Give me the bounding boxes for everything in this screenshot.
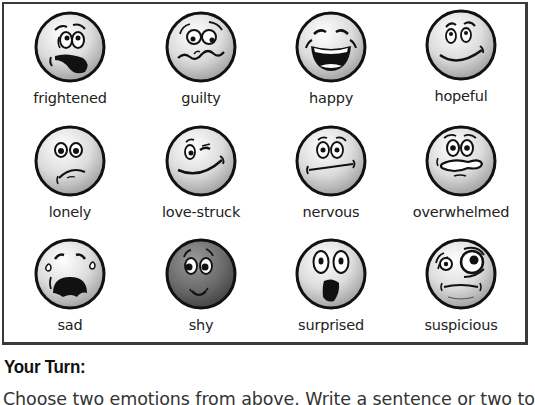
emotion-card-guilty: guilty xyxy=(136,10,266,106)
emotion-card-overwhelmed: overwhelmed xyxy=(396,124,526,220)
your-turn-instruction: Choose two emotions from above. Write a … xyxy=(3,389,535,405)
sad-face-icon xyxy=(33,237,107,311)
hopeful-face-icon xyxy=(424,8,498,82)
emotion-label: lonely xyxy=(5,204,135,220)
surprised-face-icon xyxy=(294,237,368,311)
frightened-face-icon xyxy=(33,10,107,84)
emotion-card-lonely: lonely xyxy=(5,124,135,220)
lonely-face-icon xyxy=(33,124,107,198)
emotion-label: sad xyxy=(5,317,135,333)
your-turn-heading: Your Turn: xyxy=(4,356,85,378)
emotion-card-surprised: surprised xyxy=(266,237,396,333)
nervous-face-icon xyxy=(294,124,368,198)
emotion-card-shy: shy xyxy=(136,237,266,333)
emotion-label: surprised xyxy=(266,317,396,333)
emotion-label: frightened xyxy=(5,90,135,106)
guilty-face-icon xyxy=(164,10,238,84)
emotion-label: guilty xyxy=(136,90,266,106)
emotion-label: nervous xyxy=(266,204,396,220)
emotion-label: shy xyxy=(136,317,266,333)
shy-face-icon xyxy=(164,237,238,311)
emotion-card-happy: happy xyxy=(266,10,396,106)
emotion-card-hopeful: hopeful xyxy=(396,8,526,104)
emotion-label: suspicious xyxy=(396,317,526,333)
emotion-card-suspicious: suspicious xyxy=(396,237,526,333)
emotion-card-nervous: nervous xyxy=(266,124,396,220)
emotion-card-love-struck: love-struck xyxy=(136,124,266,220)
emotion-label: hopeful xyxy=(396,88,526,104)
emotion-card-frightened: frightened xyxy=(5,10,135,106)
suspicious-face-icon xyxy=(424,237,498,311)
love-struck-face-icon xyxy=(164,124,238,198)
happy-face-icon xyxy=(294,10,368,84)
emotion-label: love-struck xyxy=(136,204,266,220)
emotion-label: overwhelmed xyxy=(396,204,526,220)
emotion-label: happy xyxy=(266,90,396,106)
emotion-card-sad: sad xyxy=(5,237,135,333)
overwhelmed-face-icon xyxy=(424,124,498,198)
